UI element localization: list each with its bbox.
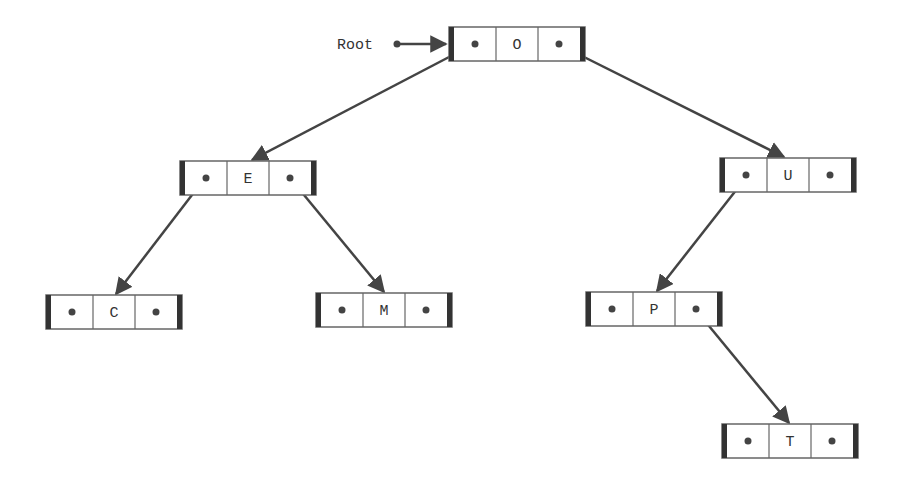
right-pointer-dot	[829, 438, 836, 445]
node-label: E	[243, 171, 252, 188]
nodes: OEUCMPT	[46, 27, 858, 458]
right-pointer-dot	[693, 306, 700, 313]
left-pointer-dot	[69, 309, 76, 316]
tree-node-P: P	[586, 292, 722, 326]
edge-O-U	[558, 44, 784, 157]
edges	[116, 44, 789, 423]
right-pointer-dot	[153, 309, 160, 316]
node-left-bar	[586, 292, 591, 326]
node-label: T	[785, 434, 794, 451]
node-right-bar	[851, 158, 856, 192]
node-right-bar	[853, 424, 858, 458]
node-right-bar	[311, 161, 316, 195]
right-pointer-dot	[827, 172, 834, 179]
left-pointer-dot	[472, 41, 479, 48]
edge-O-E	[252, 44, 474, 160]
node-left-bar	[316, 293, 321, 327]
tree-node-O: O	[449, 27, 585, 61]
tree-diagram: Root OEUCMPT	[0, 0, 901, 495]
node-right-bar	[717, 292, 722, 326]
left-pointer-dot	[203, 175, 210, 182]
left-pointer-dot	[339, 307, 346, 314]
right-pointer-dot	[423, 307, 430, 314]
node-label: U	[783, 168, 792, 185]
node-right-bar	[580, 27, 585, 61]
tree-node-E: E	[180, 161, 316, 195]
tree-node-U: U	[720, 158, 856, 192]
node-left-bar	[722, 424, 727, 458]
tree-node-M: M	[316, 293, 452, 327]
node-left-bar	[46, 295, 51, 329]
node-label: C	[109, 305, 118, 322]
left-pointer-dot	[745, 438, 752, 445]
node-right-bar	[447, 293, 452, 327]
right-pointer-dot	[556, 41, 563, 48]
node-left-bar	[449, 27, 454, 61]
node-left-bar	[720, 158, 725, 192]
node-label: P	[649, 302, 658, 319]
tree-node-C: C	[46, 295, 182, 329]
node-label: O	[512, 37, 521, 54]
left-pointer-dot	[743, 172, 750, 179]
node-left-bar	[180, 161, 185, 195]
left-pointer-dot	[609, 306, 616, 313]
root-pointer: Root	[337, 37, 446, 54]
node-label: M	[379, 303, 388, 320]
right-pointer-dot	[287, 175, 294, 182]
tree-node-T: T	[722, 424, 858, 458]
node-right-bar	[177, 295, 182, 329]
root-label: Root	[337, 37, 373, 54]
